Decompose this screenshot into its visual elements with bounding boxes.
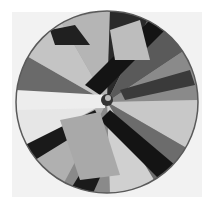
umbrella-image: [0, 0, 215, 211]
umbrella-hub: [101, 94, 113, 106]
photo-frame: Paper umbrella viewed from above with ge…: [0, 0, 215, 211]
